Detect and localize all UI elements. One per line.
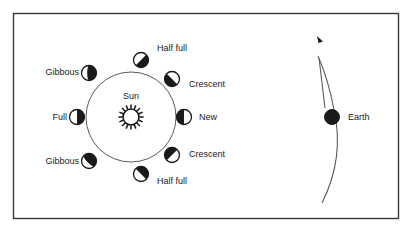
sun-ray bbox=[119, 120, 123, 122]
moon-phase-crescent-lower-right bbox=[152, 135, 180, 163]
moon-phases-diagram: SunHalf fullGibbousFullGibbousHalf fullC… bbox=[0, 0, 413, 238]
moon-phase-full-left bbox=[70, 108, 97, 127]
moon-phase-gibbous-upper-left bbox=[82, 64, 109, 83]
diagram-canvas: SunHalf fullGibbousFullGibbousHalf fullC… bbox=[0, 0, 413, 238]
earth-label: Earth bbox=[348, 112, 370, 122]
moon-phase-new-right bbox=[165, 108, 192, 127]
moon-label-gibbous-upper-left: Gibbous bbox=[45, 67, 79, 77]
moon-phase-crescent-upper-right bbox=[152, 72, 180, 100]
sun-ray bbox=[134, 125, 136, 129]
sun-ray bbox=[139, 112, 143, 114]
sun-ray bbox=[126, 105, 128, 109]
sun-symbol bbox=[118, 104, 143, 129]
sun-disc bbox=[123, 109, 139, 125]
moon-phase-half-full-top bbox=[134, 53, 162, 81]
moon-label-half-full-top: Half full bbox=[157, 43, 187, 53]
earth-disc bbox=[325, 110, 340, 125]
moon-gibbous-bulge bbox=[87, 66, 91, 81]
sun-ray bbox=[137, 108, 140, 111]
moon-label-crescent-upper-right: Crescent bbox=[189, 79, 226, 89]
sun-label: Sun bbox=[123, 91, 139, 101]
sun-ray bbox=[119, 112, 123, 114]
sun-ray bbox=[139, 120, 143, 122]
moon-label-half-full-bottom: Half full bbox=[157, 176, 187, 186]
moon-label-gibbous-lower-left: Gibbous bbox=[45, 156, 79, 166]
moon-label-crescent-lower-right: Crescent bbox=[189, 149, 226, 159]
earth-orbit-direction-arrowhead bbox=[317, 36, 323, 43]
sun-ray bbox=[122, 123, 125, 126]
sun-ray bbox=[126, 125, 128, 129]
sun-ray bbox=[137, 123, 140, 126]
moon-label-full-left: Full bbox=[52, 112, 67, 122]
sun-ray bbox=[122, 108, 125, 111]
moon-label-new-right: New bbox=[199, 112, 218, 122]
sun-ray bbox=[134, 105, 136, 109]
